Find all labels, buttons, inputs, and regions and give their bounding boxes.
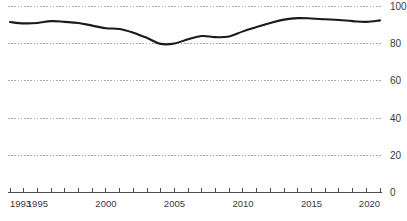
y-axis-tick-label: 60 [390,75,402,86]
data-series [10,18,380,44]
chart-canvas: 100806040200 199319952000200520102015202… [0,0,407,221]
y-axis-labels: 100806040200 [390,1,407,199]
x-axis-tick-label: 1995 [27,198,48,209]
x-axis-ticks [10,188,380,193]
x-axis-tick-label: 2020 [359,198,380,209]
y-axis-tick-label: 40 [390,113,402,124]
y-axis-tick-label: 0 [390,187,396,198]
gridlines [8,6,382,155]
x-axis-tick-label: 2015 [301,198,322,209]
y-axis-tick-label: 100 [390,1,407,12]
x-axis-tick-label: 2000 [95,198,116,209]
data-line [10,18,380,44]
line-chart: 100806040200 199319952000200520102015202… [0,0,407,221]
y-axis-tick-label: 20 [390,150,402,161]
x-axis-labels: 1993199520002005201020152020 [10,198,380,209]
y-axis-tick-label: 80 [390,38,402,49]
x-axis-tick-label: 2005 [164,198,185,209]
x-axis-tick-label: 2010 [232,198,253,209]
